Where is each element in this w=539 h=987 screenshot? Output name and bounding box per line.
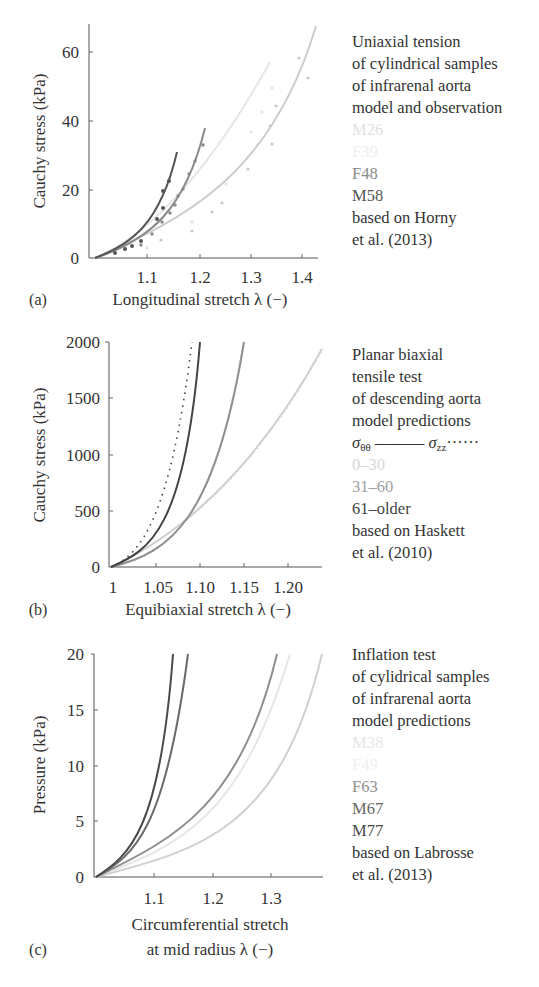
panel-c-curve-m67	[96, 654, 188, 877]
panel-b-ytick: 0	[92, 558, 101, 577]
legend-source: et al. (2013)	[352, 229, 502, 251]
panel-b-xtick: 1.10	[185, 578, 215, 597]
panel-b-curve-31-60-theta	[111, 342, 244, 567]
panel-b-ytick: 1500	[66, 389, 100, 408]
legend-title-line: model predictions	[352, 710, 489, 732]
panel-a-xtick: 1.1	[136, 268, 157, 287]
legend-title-line: of infrarenal aorta	[352, 75, 502, 97]
solid-line-sample: ———	[375, 433, 425, 452]
legend-item-f39: F39	[352, 141, 502, 163]
legend-item-m38: M38	[352, 732, 489, 754]
panel-a-chart: 60 40 20 0 1.1 1.2 1.3 1.4 Cauchy stress…	[29, 24, 318, 309]
legend-title-line: Inflation test	[352, 644, 489, 666]
legend-source: based on Horny	[352, 207, 502, 229]
panel-c-curve-m38	[96, 654, 290, 877]
panel-b-curve-61-older-zz	[111, 342, 192, 567]
legend-title-line: of cylindrical samples	[352, 53, 502, 75]
panel-c-legend: Inflation test of cylidrical samples of …	[352, 644, 489, 886]
panel-a-ytick: 0	[71, 249, 80, 268]
panel-a-ytick: 20	[62, 181, 79, 200]
legend-item-m67: M67	[352, 798, 489, 820]
legend-item-0-30: 0–30	[352, 454, 481, 476]
panel-b-xtick: 1.15	[229, 578, 259, 597]
panel-b-xtick: 1	[109, 578, 118, 597]
legend-source: based on Haskett	[352, 520, 481, 542]
sigma-theta-subscript: θθ	[360, 441, 371, 453]
panel-c-ytick: 10	[67, 757, 84, 776]
legend-item-m26: M26	[352, 119, 502, 141]
panel-a-curve-f39	[95, 26, 316, 258]
panel-b-curve-61-older-theta	[111, 342, 200, 567]
legend-item-61-older: 61–older	[352, 498, 481, 520]
panel-a-xtick: 1.2	[189, 268, 210, 287]
legend-title-line: Planar biaxial	[352, 344, 481, 366]
panel-a-curve-m58	[95, 152, 177, 258]
panel-c-label: (c)	[29, 941, 47, 959]
legend-item-f48: F48	[352, 163, 502, 185]
panel-b-legend: Planar biaxial tensile test of descendin…	[352, 344, 481, 564]
panel-a-legend: Uniaxial tension of cylindrical samples …	[352, 31, 502, 251]
panel-c-curve-f63	[96, 654, 277, 877]
panel-a-xlabel: Longitudinal stretch λ (−)	[112, 290, 287, 309]
panel-c-ytick: 15	[67, 701, 84, 720]
legend-title-line: of descending aorta	[352, 388, 481, 410]
panel-c-curve-f49	[96, 654, 322, 877]
panel-a-label: (a)	[29, 291, 47, 309]
panel-a-curve-f48	[95, 128, 205, 258]
legend-source: based on Labrosse	[352, 842, 489, 864]
panel-b-ytick: 2000	[66, 333, 100, 352]
panel-c-ytick: 20	[67, 645, 84, 664]
panel-b-curve-31-60-zz	[111, 344, 243, 567]
panel-a-xtick: 1.4	[291, 268, 313, 287]
sigma-zz-symbol: σ	[428, 433, 436, 452]
legend-title-line: of infrarenal aorta	[352, 688, 489, 710]
panel-c-curve-m77	[96, 654, 173, 877]
panel-b-label: (b)	[29, 601, 48, 619]
panel-c-xtick: 1.2	[202, 889, 223, 908]
legend-title-line: tensile test	[352, 366, 481, 388]
panel-c-chart: 20 15 10 5 0 1.1 1.2 1.3 Pressure (kPa) …	[29, 645, 323, 959]
panel-b-ytick: 1000	[66, 446, 100, 465]
panel-b-ytick: 500	[75, 502, 101, 521]
dotted-line-sample: ······	[446, 433, 479, 452]
legend-item-31-60: 31–60	[352, 476, 481, 498]
legend-title-line: of cylidrical samples	[352, 666, 489, 688]
legend-line-style-key: σθθ ——— σzz······	[352, 432, 481, 454]
panel-c-ylabel: Pressure (kPa)	[30, 716, 49, 815]
legend-item-f49: F49	[352, 754, 489, 776]
panel-b-chart: 2000 1500 1000 500 0 1 1.05 1.10 1.15 1.…	[29, 333, 322, 619]
panel-c-xtick: 1.1	[143, 889, 164, 908]
panel-b-ylabel: Cauchy stress (kPa)	[30, 387, 49, 522]
legend-item-m77: M77	[352, 820, 489, 842]
panel-c-xlabel-line1: Circumferential stretch	[131, 915, 289, 934]
legend-source: et al. (2013)	[352, 864, 489, 886]
panel-a-curve-m26	[95, 62, 270, 258]
panel-a-ylabel: Cauchy stress (kPa)	[30, 73, 49, 208]
panel-b-xlabel: Equibiaxial stretch λ (−)	[125, 600, 291, 619]
panel-a-ytick: 40	[62, 112, 79, 131]
panel-c-xlabel-line2: at mid radius λ (−)	[147, 940, 273, 959]
legend-source: et al. (2010)	[352, 542, 481, 564]
panel-c-ytick: 0	[76, 868, 85, 887]
sigma-theta-symbol: σ	[352, 433, 360, 452]
panel-c-xtick: 1.3	[260, 889, 281, 908]
legend-title-line: model and observation	[352, 97, 502, 119]
panel-c-ytick: 5	[76, 812, 85, 831]
legend-item-m58: M58	[352, 185, 502, 207]
sigma-zz-subscript: zz	[437, 441, 447, 453]
legend-title-line: model predictions	[352, 410, 481, 432]
legend-item-f63: F63	[352, 776, 489, 798]
panel-a-ytick: 60	[62, 43, 79, 62]
legend-title-line: Uniaxial tension	[352, 31, 502, 53]
panel-a-ticks	[89, 52, 302, 258]
panel-b-xtick: 1.05	[143, 578, 173, 597]
panel-b-xtick: 1.20	[273, 578, 303, 597]
panel-a-xtick: 1.3	[240, 268, 261, 287]
